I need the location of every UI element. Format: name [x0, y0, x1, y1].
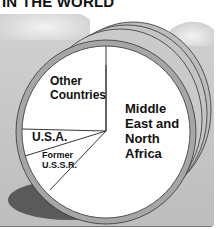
pie-chart-graphic: [0, 0, 224, 229]
label-line: Countries: [50, 89, 106, 103]
label-line: U.S.S.R.: [42, 160, 77, 170]
label-line: East and: [125, 117, 179, 132]
label-line: Other: [50, 75, 106, 89]
slice-label-former-ussr: Former U.S.S.R.: [42, 150, 77, 171]
slice-label-usa: U.S.A.: [32, 131, 67, 145]
label-line: Middle: [125, 102, 179, 117]
bottom-rule: [0, 226, 212, 227]
slice-label-middle-east-north-africa: Middle East and North Africa: [125, 102, 179, 162]
label-line: Africa: [125, 147, 179, 162]
chart-title: IN THE WORLD: [2, 0, 114, 10]
label-line: North: [125, 132, 179, 147]
slice-label-other-countries: Other Countries: [50, 75, 106, 103]
chart-stage: IN THE WORLD Other Countries U.S.A. Form…: [0, 0, 224, 229]
label-line: Former: [42, 150, 77, 160]
